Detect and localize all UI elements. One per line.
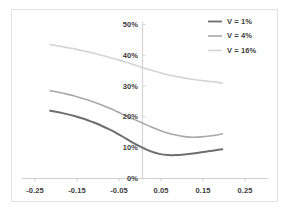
legend-label-v4: V = 4%: [227, 31, 252, 40]
y-tick-label-20: 20%: [110, 112, 138, 121]
x-tick-label-n015: -0.15: [57, 186, 97, 195]
y-tick-label-10: 10%: [110, 143, 138, 152]
y-tick-label-30: 30%: [110, 82, 138, 91]
y-tick-label-0: 0%: [110, 174, 138, 183]
legend-swatches: [208, 22, 222, 51]
x-tick-label-015: 0.15: [183, 186, 223, 195]
x-tick-label-025: 0.25: [225, 186, 265, 195]
legend-label-v16: V = 16%: [227, 46, 256, 55]
legend-label-v1: V = 1%: [227, 17, 252, 26]
x-tick-label-005: 0.05: [141, 186, 181, 195]
y-tick-label-40: 40%: [110, 51, 138, 60]
x-tick-label-n025: -0.25: [15, 186, 55, 195]
y-tick-label-50: 50%: [110, 20, 138, 29]
x-tick-label-n005: -0.05: [99, 186, 139, 195]
